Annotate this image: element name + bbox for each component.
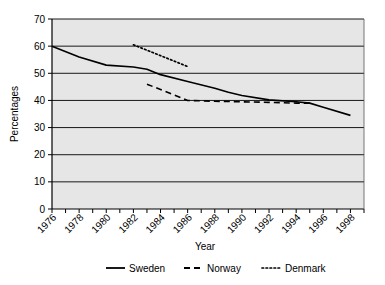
x-tick-label: 1978 xyxy=(62,211,86,235)
y-tick-label: 20 xyxy=(34,149,46,160)
y-tick-label: 10 xyxy=(34,176,46,187)
x-tick-label: 1986 xyxy=(171,211,195,235)
y-tick-label: 70 xyxy=(34,14,46,25)
x-tick-label: 1994 xyxy=(279,211,303,235)
plot-area-background xyxy=(52,19,364,209)
y-tick-label: 30 xyxy=(34,122,46,133)
y-axis-title: Percentages xyxy=(9,86,20,142)
y-tick-label: 0 xyxy=(39,204,45,215)
legend-label-sweden: Sweden xyxy=(129,263,165,274)
legend-label-norway: Norway xyxy=(207,263,241,274)
x-tick-label: 1982 xyxy=(116,211,140,235)
x-tick-label: 1980 xyxy=(89,211,113,235)
x-axis-ticks xyxy=(52,209,364,213)
legend-label-denmark: Denmark xyxy=(285,263,327,274)
x-axis-tick-labels: 1976197819801982198419861988199019921994… xyxy=(35,211,357,235)
x-axis-title: Year xyxy=(195,241,216,252)
chart-container: 010203040506070 197619781980198219841986… xyxy=(0,0,385,285)
x-tick-label: 1990 xyxy=(225,211,249,235)
y-tick-label: 50 xyxy=(34,68,46,79)
x-tick-label: 1996 xyxy=(306,211,330,235)
x-tick-label: 1984 xyxy=(143,211,167,235)
x-tick-label: 1976 xyxy=(35,211,59,235)
x-tick-label: 1998 xyxy=(333,211,357,235)
x-tick-label: 1992 xyxy=(252,211,276,235)
y-axis-tick-labels: 010203040506070 xyxy=(34,14,46,215)
x-tick-label: 1988 xyxy=(198,211,222,235)
y-tick-label: 40 xyxy=(34,95,46,106)
line-chart: 010203040506070 197619781980198219841986… xyxy=(0,0,385,285)
legend: SwedenNorwayDenmark xyxy=(106,263,327,274)
y-tick-label: 60 xyxy=(34,41,46,52)
